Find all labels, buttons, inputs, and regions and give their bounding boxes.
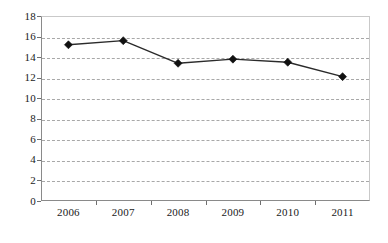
y-axis-tick-label: 18 [6,11,36,22]
x-axis-tick-label: 2009 [203,207,263,218]
series-markers [64,37,346,81]
x-axis-tick [260,201,261,205]
y-axis-tick-label: 6 [6,134,36,145]
x-axis-tick [315,201,316,205]
y-axis-tick-label: 0 [6,196,36,207]
line-chart: 024681012141618 200620072008200920102011 [0,0,388,243]
y-axis-tick-label: 16 [6,31,36,42]
data-point-marker [339,73,347,81]
y-axis-tick-label: 8 [6,113,36,124]
y-axis-tick-label: 10 [6,93,36,104]
x-axis-tick [151,201,152,205]
x-axis-tick-label: 2011 [313,207,373,218]
series-line [68,41,342,77]
data-point-marker [64,41,72,49]
data-series-layer [41,16,370,201]
y-axis-tick-label: 4 [6,154,36,165]
data-point-marker [174,59,182,67]
x-axis-tick [96,201,97,205]
data-point-marker [229,55,237,63]
data-point-marker [284,58,292,66]
x-axis-tick-label: 2006 [38,207,98,218]
y-axis-tick-label: 14 [6,52,36,63]
x-axis-tick [206,201,207,205]
x-axis-tick-label: 2010 [258,207,318,218]
y-axis-tick [37,201,41,202]
x-axis-tick-label: 2008 [148,207,208,218]
x-axis-tick-label: 2007 [93,207,153,218]
data-point-marker [119,37,127,45]
y-axis-tick-label: 2 [6,175,36,186]
y-axis-tick-label: 12 [6,72,36,83]
